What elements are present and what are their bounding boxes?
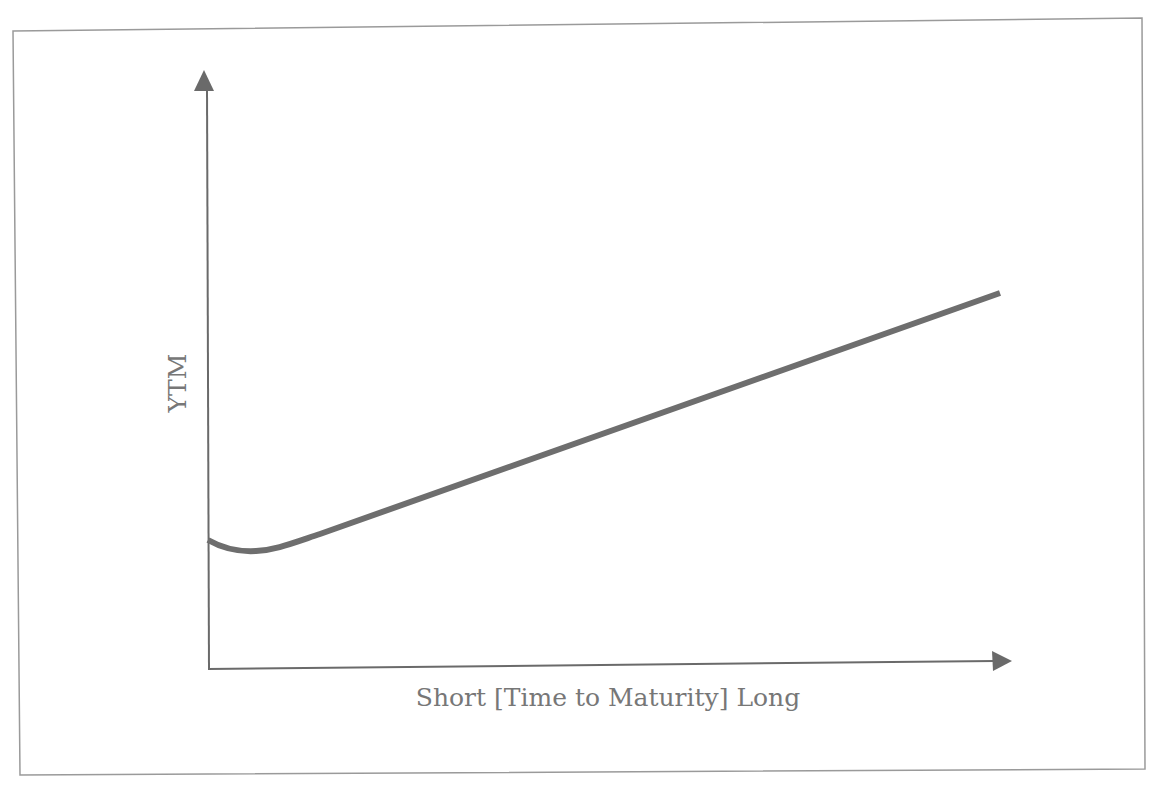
x-axis	[208, 661, 995, 669]
y-axis-label: YTM	[163, 354, 192, 414]
yield-curve-chart: YTM Short [Time to Maturity] Long	[0, 0, 1160, 786]
y-axis-arrow-icon	[194, 70, 214, 91]
yield-curve-line	[208, 293, 1000, 551]
x-axis-label: Short [Time to Maturity] Long	[416, 683, 800, 712]
x-axis-arrow-icon	[992, 651, 1012, 671]
y-axis	[207, 88, 209, 669]
